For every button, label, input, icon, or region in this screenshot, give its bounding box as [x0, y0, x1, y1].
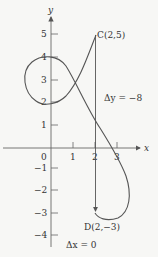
diagram-canvas: y x 0 1 2 3 5 4 3 2 1 −1 −2 −3 −4 C(2,5)… — [0, 0, 158, 257]
y-tick-label: −1 — [34, 163, 47, 173]
y-tick-label: 5 — [41, 29, 47, 39]
x-axis-label: x — [144, 143, 149, 153]
x-tick-label: 1 — [70, 152, 76, 162]
delta-x-annotation: Δx = 0 — [66, 240, 97, 250]
y-ticks — [51, 34, 58, 235]
y-tick-label: 1 — [41, 120, 47, 130]
point-d-label: D(2,−3) — [84, 222, 120, 232]
point-c-label: C(2,5) — [97, 30, 125, 40]
y-tick-label: −4 — [34, 230, 48, 240]
x-tick-label: 2 — [92, 152, 98, 162]
delta-y-annotation: Δy = −8 — [104, 93, 142, 103]
y-tick-label: 3 — [41, 75, 47, 85]
origin-label: 0 — [41, 152, 47, 162]
y-axis-label: y — [47, 5, 54, 15]
y-tick-label: 2 — [41, 97, 47, 107]
y-tick-label: −3 — [34, 208, 48, 218]
y-tick-label: −2 — [34, 185, 47, 195]
